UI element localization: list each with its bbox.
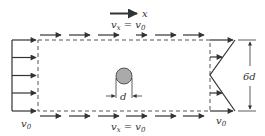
cylinder-diameter-label: d xyxy=(120,91,126,102)
bottom-velocity-label: vx = v0 xyxy=(111,121,146,134)
inlet-velocity-label: v0 xyxy=(21,118,32,131)
x-axis-label: x xyxy=(142,8,148,19)
inlet-velocity-profile xyxy=(12,40,36,111)
top-velocity-label: vx = v0 xyxy=(111,19,146,32)
outlet-velocity-label: v0 xyxy=(216,115,227,128)
flow-past-cylinder-diagram: x vx = v0 v0 d xyxy=(0,0,265,136)
x-axis-arrow: x xyxy=(110,8,148,19)
height-label: 6d xyxy=(243,71,256,82)
cylinder xyxy=(116,68,132,84)
outlet-velocity-profile xyxy=(210,40,235,111)
